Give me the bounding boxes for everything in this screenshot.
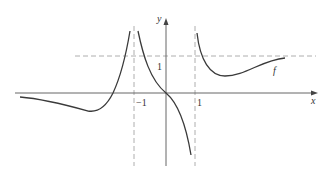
y-tick-label-1: 1 xyxy=(157,61,162,72)
y-axis-arrow xyxy=(164,18,169,25)
x-axis-label: x xyxy=(310,95,316,106)
y-axis-label: y xyxy=(156,13,162,24)
curve-label-f: f xyxy=(273,65,277,76)
function-graph: y x −1 1 1 f xyxy=(0,0,333,169)
curve-left-branch xyxy=(20,31,130,111)
x-tick-label-1: 1 xyxy=(197,97,202,108)
curve-right-branch xyxy=(197,33,285,76)
x-tick-label-neg1: −1 xyxy=(136,97,147,108)
